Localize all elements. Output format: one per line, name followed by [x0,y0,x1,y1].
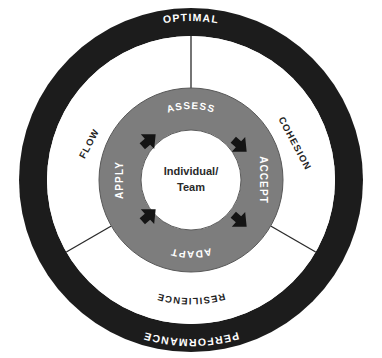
center-hub-circle [141,130,241,230]
inner-label-apply: APPLY [114,161,125,199]
concentric-cycle-diagram: OPTIMAL PERFORMANCE RESILIENCE FLOW COHE… [0,0,382,358]
diagram-root: OPTIMAL PERFORMANCE RESILIENCE FLOW COHE… [0,0,382,358]
inner-label-accept: ACCEPT [258,156,269,204]
center-label-line2: Team [177,181,205,193]
center-label-line1: Individual/ [164,165,218,177]
